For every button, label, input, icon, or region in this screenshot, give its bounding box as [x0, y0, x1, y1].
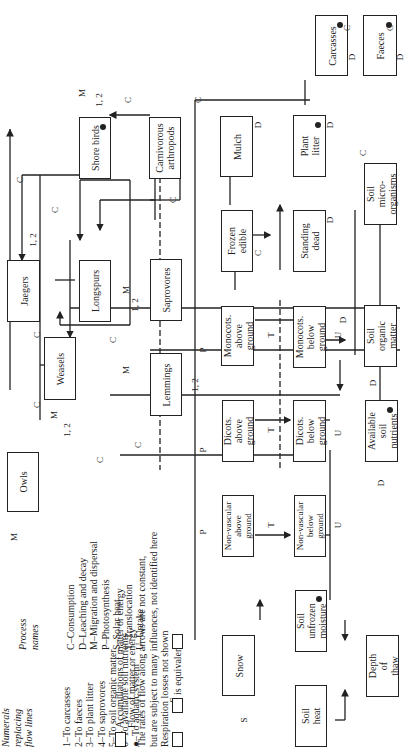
box-longspurs: Longspurs	[79, 260, 111, 322]
box-soil-heat: Soil heat	[295, 685, 327, 747]
legend-accumulation: Accumulations of matter or energy	[114, 588, 126, 728]
aquatic-dot	[387, 407, 393, 413]
flow-label-d: D	[376, 480, 386, 487]
box-carnivorous-arthropods: Carnivorous arthropods	[149, 117, 181, 179]
flow-label-c: C	[32, 332, 42, 338]
flow-label-12: 1, 2	[62, 423, 72, 437]
flow-label-t: T	[266, 522, 276, 528]
box-jaegers: Jaegers	[7, 260, 40, 322]
flow-label-12: 1, 2	[94, 93, 104, 107]
flow-label-c: C	[15, 177, 25, 183]
flow-label-c: C	[108, 337, 118, 343]
box-soil-unfrozen-moisture: Soil unfrozen moisture	[295, 590, 327, 652]
flow-label-p: P	[198, 529, 208, 534]
flow-label-c: C	[95, 457, 105, 463]
box-snow: Snow	[222, 635, 255, 696]
flow-label-12: 1, 2	[28, 233, 38, 247]
aquatic-dot	[100, 124, 106, 130]
box-nonvascular-below: Non-vascular below ground	[294, 495, 326, 557]
flow-label-d: D	[347, 54, 357, 61]
flow-label-c: C	[193, 97, 203, 103]
box-frozen-edible: Frozen edible	[221, 210, 253, 272]
flow-label-12: 1, 2	[130, 298, 140, 312]
flow-label-d: D	[395, 54, 405, 61]
box-standing-dead: Standing dead	[293, 210, 326, 272]
legend-respiration: Respiration losses not shown	[159, 631, 171, 747]
flow-label-s: S	[239, 717, 249, 722]
box-dicots-above: Dicots. above ground	[222, 400, 254, 462]
flow-label-c: C	[32, 402, 42, 408]
flow-label-u: U	[333, 430, 343, 437]
flow-label-c: C	[253, 250, 263, 256]
box-nonvascular-above: Non-vascular above ground	[222, 495, 254, 557]
flow-label-12: 1, 2	[190, 378, 200, 392]
box-soil-organic-matter: Soil organic matter	[364, 305, 397, 367]
flow-label-u: U	[333, 522, 343, 529]
flow-label-m: M	[77, 89, 87, 97]
aquatic-dot	[316, 596, 322, 602]
flow-label-d: D	[325, 122, 335, 129]
flow-label-m: M	[9, 533, 19, 541]
flow-label-d: D	[253, 122, 263, 129]
box-monocots-above: Monocots. above ground	[221, 306, 254, 366]
flow-label-c: C	[133, 442, 143, 448]
box-plant-litter: Plant litter	[293, 115, 326, 177]
legend-equiv-box-a	[172, 732, 183, 747]
flow-label-c: C	[358, 150, 368, 156]
box-weasels: Weasels	[44, 337, 76, 400]
flow-label-c: C	[50, 207, 60, 213]
box-lemmings: Lemmings	[150, 353, 182, 416]
flow-label-c: C	[123, 97, 133, 103]
flow-label-d: D	[338, 317, 348, 324]
flow-label-m: M	[121, 286, 131, 294]
flow-label-p: P	[198, 347, 208, 352]
box-saprovores: Saprovores	[150, 259, 182, 321]
flow-label-c: C	[342, 25, 352, 31]
box-shore-birds: Shore birds	[79, 117, 111, 179]
aquatic-dot	[315, 122, 321, 128]
box-mulch: Mulch	[220, 116, 253, 177]
flow-label-m: M	[121, 366, 131, 374]
box-owls: Owls	[7, 452, 39, 512]
flow-label-t: T	[266, 427, 276, 433]
box-monocots-below: Monocots. below ground	[293, 306, 326, 368]
box-available-soil-nutrients: Available soil nutrients	[365, 400, 398, 462]
flow-label-c: C	[385, 25, 395, 31]
legend-equiv-box-b	[172, 698, 183, 713]
box-depth-of-thaw: Depth of thaw	[366, 635, 399, 697]
box-dicots-below: Dicots. below ground	[293, 400, 326, 462]
legend-accumulation-box	[115, 732, 126, 747]
flow-label-c: C	[168, 197, 178, 203]
flow-label-p: P	[198, 447, 208, 452]
legend-equiv-box-c	[172, 634, 183, 649]
legend-process-title: Process names	[17, 619, 40, 650]
box-soil-microorganisms: Soil micro- organisms	[364, 163, 397, 225]
flow-label-m: M	[49, 411, 59, 419]
legend-rates-note: The rates of flow along arrows are not c…	[136, 532, 159, 747]
flow-label-t: T	[266, 332, 276, 338]
flow-label-d: D	[325, 217, 335, 224]
legend-numerals-title: Numerals replacing flow lines	[0, 708, 35, 747]
flow-label-d: D	[368, 380, 378, 387]
flow-label-u: U	[333, 332, 343, 339]
